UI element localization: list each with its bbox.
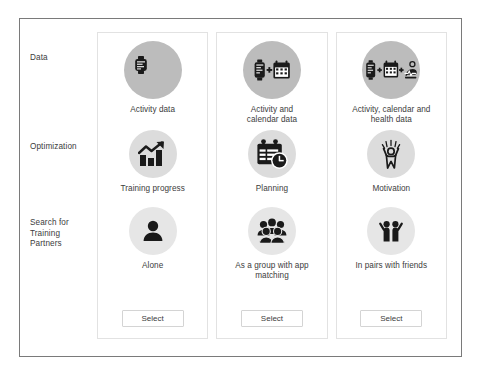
select-button-3[interactable]: Select bbox=[360, 310, 422, 327]
icon-circle bbox=[367, 207, 415, 255]
smartwatch-plus-calendar-icon bbox=[252, 59, 292, 81]
row-label-optimization: Optimization bbox=[30, 142, 77, 153]
option-alone[interactable]: Alone bbox=[98, 207, 207, 271]
select-button-1[interactable]: Select bbox=[122, 310, 184, 327]
option-group-app-matching[interactable]: As a group with app matching bbox=[217, 207, 326, 281]
option-label: Activity data bbox=[101, 105, 205, 115]
option-label: Planning bbox=[220, 184, 324, 194]
option-pairs-with-friends[interactable]: In pairs with friends bbox=[337, 207, 446, 271]
icon-circle bbox=[129, 207, 177, 255]
select-button-2[interactable]: Select bbox=[241, 310, 303, 327]
option-activity-data[interactable]: Activity data bbox=[98, 41, 207, 115]
icon-circle bbox=[124, 41, 182, 99]
icon-circle bbox=[362, 41, 420, 99]
single-person-icon bbox=[141, 219, 165, 243]
option-card-1[interactable]: Activity data Training progress bbox=[97, 32, 208, 339]
two-people-icon bbox=[378, 219, 404, 243]
row-label-search-partners: Search for Training Partners bbox=[30, 218, 69, 250]
option-training-progress[interactable]: Training progress bbox=[98, 130, 207, 194]
icon-circle bbox=[243, 41, 301, 99]
option-planning[interactable]: Planning bbox=[217, 130, 326, 194]
icon-circle bbox=[248, 207, 296, 255]
icon-circle bbox=[129, 130, 177, 178]
row-label-data: Data bbox=[30, 53, 48, 64]
option-label: As a group with app matching bbox=[220, 261, 324, 281]
row-label-column: Data Optimization Search for Training Pa… bbox=[30, 18, 96, 357]
icon-circle bbox=[248, 130, 296, 178]
bar-chart-growth-icon bbox=[138, 141, 168, 167]
option-label: In pairs with friends bbox=[339, 261, 443, 271]
option-label: Activity, calendar and health data bbox=[339, 105, 443, 125]
option-activity-calendar-data[interactable]: Activity and calendar data bbox=[217, 41, 326, 125]
option-motivation[interactable]: Motivation bbox=[337, 130, 446, 194]
option-card-2[interactable]: Activity and calendar data bbox=[216, 32, 327, 339]
option-card-list: Activity data Training progress bbox=[97, 32, 447, 339]
group-of-people-icon bbox=[257, 218, 287, 244]
smartwatch-icon bbox=[134, 56, 148, 74]
smartwatch-calendar-health-icon bbox=[365, 59, 417, 81]
option-label: Training progress bbox=[101, 184, 205, 194]
option-label: Alone bbox=[101, 261, 205, 271]
screenshot-root: Data Optimization Search for Training Pa… bbox=[0, 0, 481, 379]
calendar-clock-icon bbox=[256, 139, 288, 169]
option-card-3[interactable]: Activity, calendar and health data bbox=[336, 32, 447, 339]
cheering-person-icon bbox=[377, 139, 405, 169]
option-label: Motivation bbox=[339, 184, 443, 194]
icon-circle bbox=[367, 130, 415, 178]
option-activity-calendar-health-data[interactable]: Activity, calendar and health data bbox=[337, 41, 446, 125]
option-label: Activity and calendar data bbox=[220, 105, 324, 125]
